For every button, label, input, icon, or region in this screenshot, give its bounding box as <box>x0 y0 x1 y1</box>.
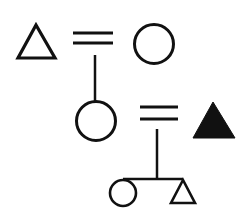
marriage-equals-icon <box>140 107 178 119</box>
female-circle-icon <box>77 102 116 141</box>
ego-male-filled-triangle-icon <box>193 102 235 138</box>
male-triangle-icon <box>18 25 55 58</box>
male-triangle-icon <box>171 180 195 203</box>
female-circle-icon <box>135 25 174 64</box>
kinship-diagram <box>0 0 248 214</box>
marriage-equals-icon <box>73 33 113 43</box>
female-circle-icon <box>110 180 136 206</box>
